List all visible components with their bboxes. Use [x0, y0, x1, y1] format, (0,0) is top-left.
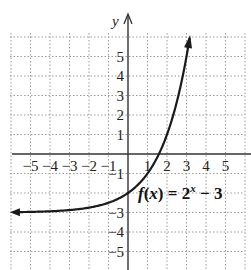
y-tick-label: −5 [108, 244, 124, 260]
y-tick-label: −3 [108, 205, 124, 221]
y-axis-label: y [110, 13, 119, 29]
exponential-function-graph: −5−4−3−2−11234554321−1−3−4−5 y f(x) = 2x… [0, 0, 251, 270]
x-tick-label: −2 [81, 158, 97, 174]
x-tick-label: 5 [222, 158, 230, 174]
x-tick-label: −4 [42, 158, 58, 174]
y-tick-label: 3 [117, 88, 125, 104]
x-tick-label: −5 [23, 158, 39, 174]
y-tick-label: 2 [117, 107, 125, 123]
x-tick-label: 3 [183, 158, 191, 174]
y-tick-label: 1 [117, 127, 125, 143]
y-tick-label: −4 [108, 224, 124, 240]
y-tick-label: 5 [117, 49, 125, 65]
y-tick-label: 4 [117, 68, 125, 84]
x-tick-label: 4 [202, 158, 210, 174]
axes [12, 14, 251, 270]
function-label: f(x) = 2x − 3 [138, 182, 222, 203]
x-tick-label: −3 [62, 158, 78, 174]
x-tick-label: 2 [163, 158, 171, 174]
y-tick-label: −1 [108, 166, 124, 182]
